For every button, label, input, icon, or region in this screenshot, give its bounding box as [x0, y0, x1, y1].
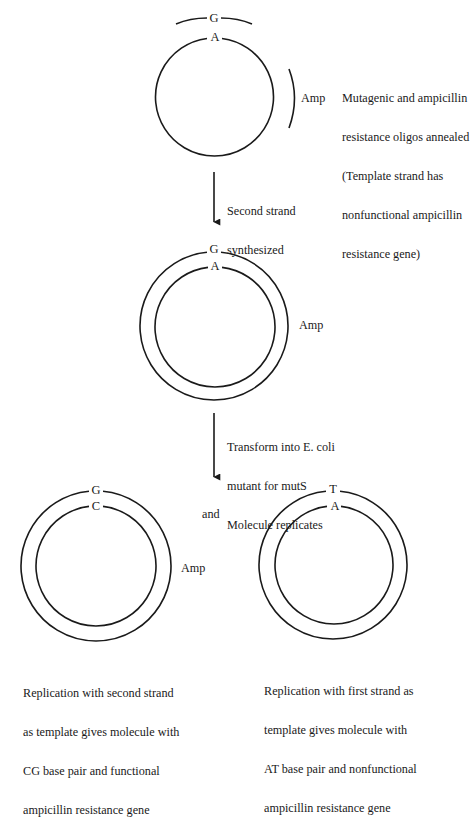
- inner-base-label: A: [328, 500, 342, 513]
- template-base-label: A: [208, 31, 222, 44]
- amp-label: Amp: [181, 562, 205, 575]
- outer-strand-circle: [140, 252, 288, 400]
- amp-oligo-arc: [289, 69, 295, 128]
- result-left-outer-circle: [21, 491, 171, 641]
- inner-base-label: A: [208, 260, 222, 273]
- inner-base-label: C: [89, 500, 103, 513]
- outer-base-label: T: [326, 483, 340, 496]
- outer-base-label: G: [207, 243, 221, 256]
- arrow1-label: Second strand synthesized: [227, 179, 296, 270]
- result-left-inner-circle: [36, 506, 156, 626]
- arrow2-label: Transform into E. coli mutant for mutS M…: [227, 415, 335, 545]
- amp-label: Amp: [301, 92, 325, 105]
- amp-label: Amp: [299, 319, 323, 332]
- inner-strand-circle: [155, 267, 275, 387]
- outer-base-label: G: [89, 484, 103, 497]
- result-right-caption: Replication with first strand as templat…: [264, 659, 417, 821]
- oligo-base-label: G: [207, 12, 221, 25]
- conjunction-label: and: [202, 508, 220, 521]
- result-left-caption: Replication with second strand as templa…: [23, 661, 179, 821]
- step1-description: Mutagenic and ampicillin resistance olig…: [342, 66, 469, 274]
- template-strand-circle: [156, 39, 274, 157]
